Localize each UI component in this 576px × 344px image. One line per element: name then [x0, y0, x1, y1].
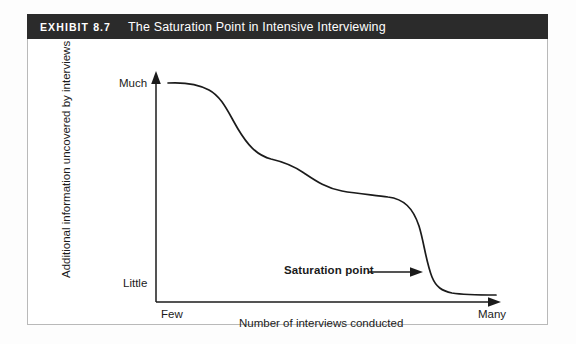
- y-axis-title: Additional information uncovered by inte…: [60, 58, 72, 278]
- saturation-point-arrow: [368, 267, 423, 277]
- y-axis: [151, 71, 161, 302]
- x-axis-tick-few: Few: [161, 308, 183, 320]
- exhibit-number-label: EXHIBIT 8.7: [40, 21, 111, 33]
- screenshot-root: EXHIBIT 8.7 The Saturation Point in Inte…: [0, 0, 576, 344]
- exhibit-frame: EXHIBIT 8.7 The Saturation Point in Inte…: [27, 14, 548, 325]
- y-axis-tick-much: Much: [119, 77, 147, 89]
- exhibit-header-bar: EXHIBIT 8.7 The Saturation Point in Inte…: [27, 14, 548, 39]
- x-axis-tick-many: Many: [478, 308, 506, 320]
- saturation-arrowhead-icon: [410, 267, 423, 277]
- x-axis-title: Number of interviews conducted: [239, 317, 403, 329]
- x-axis: [156, 297, 501, 307]
- x-axis-arrowhead-icon: [488, 297, 501, 307]
- saturation-curve-chart: [28, 40, 547, 324]
- y-axis-tick-little: Little: [123, 277, 147, 289]
- saturation-point-annotation-label: Saturation point: [284, 264, 374, 276]
- figure-area: Additional information uncovered by inte…: [28, 40, 547, 324]
- y-axis-arrowhead-icon: [151, 71, 161, 84]
- exhibit-title: The Saturation Point in Intensive Interv…: [128, 20, 386, 34]
